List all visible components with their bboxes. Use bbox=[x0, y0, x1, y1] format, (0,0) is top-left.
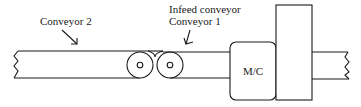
conveyor-diagram: M/C Conveyor 2 Infeed conveyor Conveyor … bbox=[0, 0, 361, 107]
break-mark-left-icon bbox=[14, 51, 18, 78]
roller-right bbox=[157, 52, 183, 78]
machine-label: M/C bbox=[243, 65, 263, 77]
conveyor-1-arrow-icon bbox=[184, 30, 193, 44]
conveyor-2-label: Conveyor 2 bbox=[40, 15, 92, 27]
infeed-label-line2: Conveyor 1 bbox=[169, 15, 221, 27]
tall-unit-box bbox=[276, 5, 312, 100]
roller-right-outer bbox=[157, 52, 183, 78]
outfeed-conveyor bbox=[312, 52, 349, 79]
roller-left bbox=[127, 52, 153, 78]
infeed-label-line1: Infeed conveyor bbox=[169, 3, 241, 15]
conveyor-2-arrow-icon bbox=[62, 30, 77, 44]
break-mark-right-icon bbox=[345, 52, 349, 79]
roller-left-outer bbox=[127, 52, 153, 78]
